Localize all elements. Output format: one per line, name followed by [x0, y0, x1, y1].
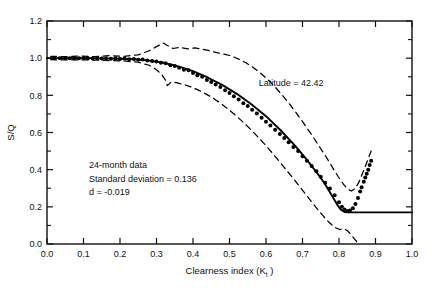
y-tick-label: 0.4 [29, 165, 42, 175]
data-point [368, 163, 372, 167]
data-point [232, 94, 236, 98]
x-tick-label: 0.9 [369, 249, 382, 259]
data-point [246, 104, 250, 108]
data-point [369, 159, 373, 163]
x-tick-label: 0.4 [187, 249, 200, 259]
data-point [278, 132, 282, 136]
annotation-data-span: 24-month data [89, 160, 147, 170]
y-tick-label: 0.6 [29, 128, 42, 138]
data-point [237, 97, 241, 101]
x-tick-label: 0.8 [333, 249, 346, 259]
data-point [223, 88, 227, 92]
data-point [366, 168, 370, 172]
y-tick-label: 1.0 [29, 53, 42, 63]
y-axis-title: S/Q [5, 124, 16, 140]
data-point [260, 116, 264, 120]
data-point [363, 175, 367, 179]
x-tick-label: 0.7 [296, 249, 309, 259]
y-tick-label: 0.8 [29, 91, 42, 101]
annotation-standard-deviation: Standard deviation = 0.136 [89, 174, 197, 184]
data-point [268, 123, 272, 127]
x-tick-label: 1.0 [406, 249, 419, 259]
data-point [353, 202, 357, 206]
y-tick-label: 1.2 [29, 16, 42, 26]
x-axis-title: Clearness index (Kt ) [186, 265, 274, 278]
x-tick-label: 0.1 [77, 249, 90, 259]
data-point [273, 128, 277, 132]
data-point [255, 112, 259, 116]
data-point [351, 206, 355, 210]
x-tick-label: 0.0 [41, 249, 54, 259]
annotation-latitude: Latitude = 42.42 [259, 78, 324, 88]
data-point [264, 120, 268, 124]
x-tick-label: 0.2 [114, 249, 127, 259]
annotation-d-value: d = -0.019 [89, 187, 130, 197]
data-point [365, 172, 369, 176]
data-point [358, 190, 362, 194]
data-point [241, 101, 245, 105]
x-tick-label: 0.6 [260, 249, 273, 259]
chart-figure: 0.00.10.20.30.40.50.60.70.80.91.00.00.20… [0, 0, 435, 290]
y-tick-label: 0.0 [29, 239, 42, 249]
x-tick-label: 0.3 [150, 249, 163, 259]
data-point [356, 196, 360, 200]
x-tick-label: 0.5 [223, 249, 236, 259]
y-tick-label: 0.2 [29, 202, 42, 212]
plot-frame [47, 21, 412, 244]
data-point [360, 185, 364, 189]
data-point [250, 108, 254, 112]
data-point [362, 180, 366, 184]
data-point [228, 91, 232, 95]
